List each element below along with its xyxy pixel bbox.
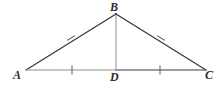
vertex-label-b: B — [110, 1, 118, 13]
segment-bc — [116, 14, 206, 70]
vertex-label-a: A — [13, 69, 21, 81]
segment-ab — [26, 14, 116, 70]
vertex-label-d: D — [110, 71, 119, 83]
geometry-figure: A B C D — [0, 0, 223, 85]
vertex-label-c: C — [205, 69, 213, 81]
